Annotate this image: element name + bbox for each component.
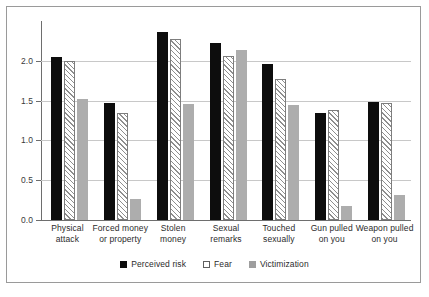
bar	[341, 206, 352, 220]
plot-area	[41, 21, 411, 220]
bar	[183, 104, 194, 220]
x-axis-label: Weapon pulledon you	[352, 223, 417, 245]
legend-label: Victimization	[260, 259, 309, 269]
bar	[288, 105, 299, 220]
bar	[262, 64, 273, 220]
legend-swatch-icon	[249, 261, 256, 268]
y-tick-label-1.0: 1.0	[21, 135, 33, 145]
bar-group	[368, 21, 405, 220]
legend-item: Victimization	[249, 259, 309, 269]
legend-label: Perceived risk	[131, 259, 186, 269]
bar	[315, 113, 326, 220]
bar-group	[104, 21, 141, 220]
bar-group	[315, 21, 352, 220]
bar-group	[51, 21, 88, 220]
bar	[394, 195, 405, 220]
legend-swatch-icon	[120, 261, 127, 268]
bar	[328, 110, 339, 220]
bar	[104, 103, 115, 220]
bar	[130, 199, 141, 220]
bar	[64, 61, 75, 220]
y-tick-label-0.5: 0.5	[21, 175, 33, 185]
x-axis-category-labels: PhysicalattackForced moneyor propertySto…	[41, 223, 411, 257]
legend-swatch-icon	[203, 261, 210, 268]
bar-group	[262, 21, 299, 220]
bar	[157, 32, 168, 220]
bar-group	[157, 21, 194, 220]
figure-frame: 0.00.51.01.52.0 PhysicalattackForced mon…	[6, 6, 421, 283]
bar	[368, 102, 379, 220]
y-tick-label-2.0: 2.0	[21, 56, 33, 66]
y-tick-label-0.0: 0.0	[21, 215, 33, 225]
bar	[51, 57, 62, 220]
bar	[236, 50, 247, 220]
chart-legend: Perceived riskFearVictimization	[7, 259, 422, 269]
x-axis-label-line: Weapon pulled	[352, 223, 417, 234]
y-axis-tick-labels: 0.00.51.01.52.0	[7, 21, 33, 220]
bar	[77, 99, 88, 220]
gridline-0.0	[41, 220, 411, 221]
bar-group	[210, 21, 247, 220]
bar	[381, 103, 392, 220]
x-axis-label-line: on you	[352, 234, 417, 245]
bar	[170, 39, 181, 220]
bar	[223, 56, 234, 220]
bar	[117, 113, 128, 220]
bar	[275, 79, 286, 220]
legend-label: Fear	[214, 259, 232, 269]
bar	[210, 43, 221, 220]
legend-item: Perceived risk	[120, 259, 186, 269]
y-tick-label-1.5: 1.5	[21, 96, 33, 106]
legend-item: Fear	[203, 259, 232, 269]
